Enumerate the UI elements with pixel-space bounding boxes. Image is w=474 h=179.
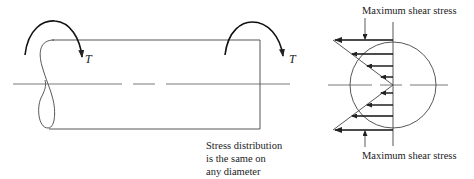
max-shear-stress-label-top: Maximum shear stress [362, 5, 457, 16]
torsion-diagram: T T Stress distribution is the same on a… [0, 0, 474, 179]
max-shear-stress-label-bottom: Maximum shear stress [362, 150, 457, 161]
note-line-1: Stress distribution [206, 140, 283, 151]
cross-section: Maximum shear stress Maximum shear stres… [328, 5, 457, 161]
torque-label-left: T [85, 52, 93, 66]
torque-arrow-left-icon [25, 21, 82, 57]
note-line-2: is the same on [206, 153, 267, 164]
torque-arrow-right-icon [225, 22, 283, 56]
torque-label-right: T [289, 52, 297, 66]
note-line-3: any diameter [206, 166, 261, 177]
stress-distribution-note: Stress distribution is the same on any d… [206, 140, 283, 177]
shaft [39, 40, 260, 129]
